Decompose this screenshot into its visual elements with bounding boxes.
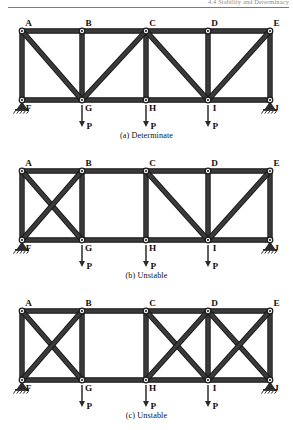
svg-text:I: I xyxy=(213,103,217,113)
svg-text:F: F xyxy=(26,243,32,253)
caption-c: (c) Unstable xyxy=(0,411,293,420)
svg-text:A: A xyxy=(25,18,32,28)
svg-text:P: P xyxy=(87,401,93,410)
svg-text:P: P xyxy=(213,401,219,410)
svg-text:F: F xyxy=(26,383,32,393)
caption-b: (b) Unstable xyxy=(0,271,293,280)
svg-text:C: C xyxy=(149,298,156,308)
truss-figure-a: ABCDEFGHIJPPP (a) Determinate xyxy=(0,9,293,152)
svg-text:A: A xyxy=(25,298,32,308)
svg-text:G: G xyxy=(85,103,92,113)
svg-text:P: P xyxy=(213,121,219,130)
svg-text:I: I xyxy=(213,383,217,393)
svg-text:D: D xyxy=(211,158,218,168)
truss-figure-b: ABCDEFGHIJPPP (b) Unstable xyxy=(0,149,293,292)
svg-text:J: J xyxy=(274,383,279,393)
truss-diagram-b: ABCDEFGHIJPPP xyxy=(0,149,293,269)
svg-text:H: H xyxy=(149,383,156,393)
figure-page: 4.4 Stability and Determinacy ABCDEFGHIJ… xyxy=(0,0,293,430)
caption-a: (a) Determinate xyxy=(0,131,293,140)
svg-text:D: D xyxy=(211,298,218,308)
svg-text:G: G xyxy=(85,383,92,393)
running-header-text: 4.4 Stability and Determinacy xyxy=(208,0,289,5)
svg-text:C: C xyxy=(149,158,156,168)
svg-text:B: B xyxy=(85,158,91,168)
svg-text:I: I xyxy=(213,243,217,253)
svg-text:F: F xyxy=(26,103,32,113)
header-rule xyxy=(8,7,289,8)
truss-diagram-c: ABCDEFGHIJPPP xyxy=(0,289,293,409)
svg-text:B: B xyxy=(85,298,91,308)
running-header: 4.4 Stability and Determinacy xyxy=(0,0,293,9)
svg-text:P: P xyxy=(151,401,157,410)
svg-text:B: B xyxy=(85,18,91,28)
truss-figure-c: ABCDEFGHIJPPP (c) Unstable xyxy=(0,289,293,430)
svg-text:P: P xyxy=(87,121,93,130)
svg-text:P: P xyxy=(213,261,219,270)
svg-text:H: H xyxy=(149,243,156,253)
svg-text:D: D xyxy=(211,18,218,28)
svg-text:E: E xyxy=(273,298,279,308)
svg-text:C: C xyxy=(149,18,156,28)
truss-diagram-a: ABCDEFGHIJPPP xyxy=(0,9,293,129)
svg-text:H: H xyxy=(149,103,156,113)
svg-text:E: E xyxy=(273,18,279,28)
svg-text:J: J xyxy=(274,243,279,253)
svg-text:J: J xyxy=(274,103,279,113)
svg-text:A: A xyxy=(25,158,32,168)
svg-text:P: P xyxy=(87,261,93,270)
svg-text:P: P xyxy=(151,261,157,270)
svg-text:G: G xyxy=(85,243,92,253)
svg-text:P: P xyxy=(151,121,157,130)
svg-text:E: E xyxy=(273,158,279,168)
